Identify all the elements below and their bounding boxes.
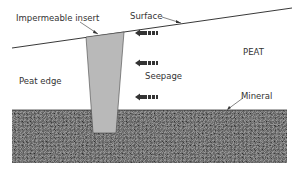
mineral-layer [12,110,287,163]
label-peat: PEAT [243,48,264,57]
seepage-arrow-icon [135,60,158,67]
label-surface: Surface [130,12,162,21]
seepage-arrow-icon [135,94,158,101]
label-mineral: Mineral [241,92,272,101]
label-impermeable-insert: Impermeable insert [16,14,99,23]
insert-pointer-arrowhead [93,30,98,34]
label-peat-edge: Peat edge [19,77,62,86]
seepage-arrow-icon [135,30,158,37]
label-seepage: Seepage [145,72,182,81]
mineral-pointer-arrowhead [227,106,231,110]
